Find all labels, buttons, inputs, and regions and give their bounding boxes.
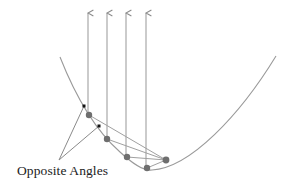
reflection-point-4 — [144, 165, 150, 171]
reflected-ray-2 — [107, 139, 166, 160]
pointer-line-1 — [59, 106, 84, 160]
reflected-ray-1 — [89, 115, 166, 160]
reflection-point-2 — [104, 136, 110, 142]
incoming-rays — [88, 13, 146, 168]
angle-marker-1 — [83, 105, 86, 108]
reflection-point-3 — [124, 154, 130, 160]
parabola-curve — [60, 56, 276, 170]
reflection-point-1 — [86, 112, 92, 118]
angle-marker-2 — [98, 125, 101, 128]
label-pointers — [59, 106, 99, 160]
opposite-angles-label: Opposite Angles — [17, 163, 108, 179]
focus-point — [163, 157, 170, 164]
pointer-line-2 — [59, 126, 99, 160]
